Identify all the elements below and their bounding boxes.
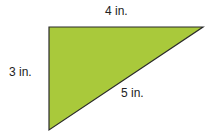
hypotenuse-label: 5 in. [121,87,144,99]
left-side-label: 3 in. [9,66,32,78]
right-triangle-diagram [0,0,214,137]
right-triangle [49,27,203,130]
top-side-label: 4 in. [105,5,128,17]
